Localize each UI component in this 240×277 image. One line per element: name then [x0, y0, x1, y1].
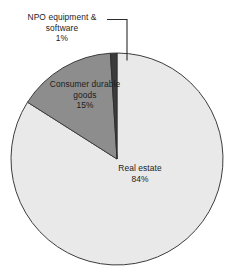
- pie-label-real-estate: Real estate 84%: [100, 163, 180, 184]
- pie-label-npo-line-1: NPO equipment &: [8, 12, 116, 23]
- pie-label-consumer-line-1: Consumer durable: [36, 79, 134, 90]
- pie-label-npo-line-2: software: [8, 23, 116, 34]
- pie-chart-figure: NPO equipment & software 1% Consumer dur…: [0, 0, 240, 277]
- pie-label-npo-value: 1%: [8, 33, 116, 44]
- pie-label-consumer-value: 15%: [36, 100, 134, 111]
- pie-label-npo-equipment-software: NPO equipment & software 1%: [8, 12, 116, 44]
- pie-label-consumer-durable-goods: Consumer durable goods 15%: [36, 79, 134, 111]
- pie-label-real-estate-line-1: Real estate: [100, 163, 180, 174]
- pie-label-consumer-line-2: goods: [36, 90, 134, 101]
- pie-label-real-estate-value: 84%: [100, 174, 180, 185]
